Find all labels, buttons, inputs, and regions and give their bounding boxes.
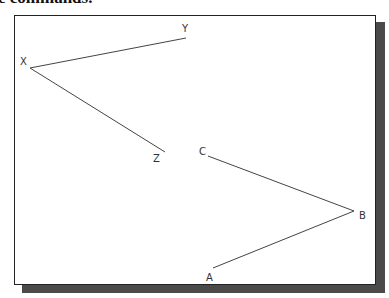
segment-xy: [30, 38, 186, 68]
segment-cb: [208, 156, 354, 211]
point-label-z: Z: [153, 153, 160, 164]
point-label-a: A: [206, 272, 213, 283]
point-label-c: C: [199, 146, 206, 157]
line-diagram: XYZCBA: [0, 0, 389, 298]
point-label-b: B: [359, 210, 366, 221]
segment-xz: [30, 68, 165, 152]
point-label-y: Y: [181, 23, 189, 34]
point-label-x: X: [20, 56, 27, 67]
segment-ba: [213, 211, 354, 268]
